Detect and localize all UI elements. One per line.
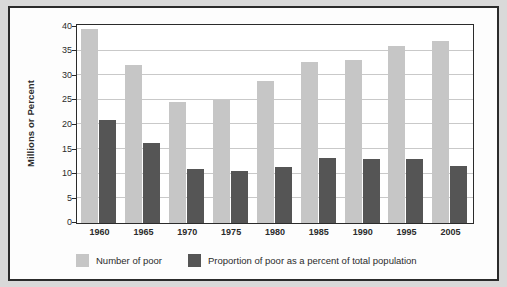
legend-label: Number of poor xyxy=(96,255,162,266)
bar-group xyxy=(165,25,209,223)
bar-group xyxy=(384,25,428,223)
bar xyxy=(301,62,318,223)
x-axis-tick-label: 1980 xyxy=(252,227,298,237)
y-axis-title-label: Millions or Percent xyxy=(25,80,36,167)
x-axis-tick-label: 1990 xyxy=(340,227,386,237)
bar xyxy=(231,171,248,223)
bar-group xyxy=(428,25,472,223)
legend-entry: Proportion of poor as a percent of total… xyxy=(188,254,417,267)
bar xyxy=(169,102,186,223)
figure-frame: Millions or Percent 0510152025303540 196… xyxy=(8,6,499,281)
bar-group xyxy=(252,25,296,223)
bar xyxy=(450,166,467,223)
bar-group xyxy=(121,25,165,223)
y-axis-tick-label: 5 xyxy=(50,193,72,203)
bar xyxy=(388,46,405,223)
x-axis-tick-label: 1960 xyxy=(77,227,123,237)
y-axis-tick-labels: 0510152025303540 xyxy=(48,24,72,224)
bar xyxy=(363,159,380,223)
bar-group xyxy=(340,25,384,223)
page-background: Millions or Percent 0510152025303540 196… xyxy=(0,0,507,287)
x-axis-tick-label: 1965 xyxy=(120,227,166,237)
legend-swatch-light xyxy=(76,254,89,267)
y-axis-tick-label: 30 xyxy=(50,70,72,80)
y-axis-tick-label: 0 xyxy=(50,217,72,227)
bar xyxy=(187,169,204,223)
bar xyxy=(125,65,142,223)
bar xyxy=(213,100,230,223)
y-axis-tick-label: 35 xyxy=(50,45,72,55)
bar xyxy=(406,159,423,223)
y-axis-tick-label: 15 xyxy=(50,144,72,154)
figure-inner: Millions or Percent 0510152025303540 196… xyxy=(10,8,497,279)
y-axis-tick-label: 20 xyxy=(50,119,72,129)
chart-legend: Number of poorProportion of poor as a pe… xyxy=(76,251,486,269)
x-axis-tick-label: 2005 xyxy=(427,227,473,237)
y-axis-tick-label: 25 xyxy=(50,94,72,104)
bar xyxy=(345,60,362,223)
bar xyxy=(143,143,160,223)
bar xyxy=(99,120,116,223)
y-axis-title: Millions or Percent xyxy=(22,48,38,198)
legend-label: Proportion of poor as a percent of total… xyxy=(208,255,417,266)
plot-area xyxy=(76,24,474,224)
bar-group xyxy=(77,25,121,223)
x-axis-tick-label: 1975 xyxy=(208,227,254,237)
legend-entry: Number of poor xyxy=(76,254,162,267)
y-axis-tick-label: 10 xyxy=(50,168,72,178)
plot-inner xyxy=(77,25,473,223)
bar xyxy=(257,81,274,223)
bar xyxy=(81,29,98,223)
bar-group xyxy=(296,25,340,223)
x-axis-tick-labels: 196019651970197519801985199019952005 xyxy=(76,227,474,243)
x-axis-tick-label: 1970 xyxy=(164,227,210,237)
x-axis-tick-label: 1985 xyxy=(296,227,342,237)
x-axis-tick-label: 1995 xyxy=(384,227,430,237)
bar xyxy=(275,167,292,223)
y-axis-tick-label: 40 xyxy=(50,21,72,31)
bar xyxy=(319,158,336,223)
bar-chart: Millions or Percent 0510152025303540 196… xyxy=(10,8,497,279)
legend-swatch-dark xyxy=(188,254,201,267)
bar-group xyxy=(209,25,253,223)
bar xyxy=(432,41,449,223)
